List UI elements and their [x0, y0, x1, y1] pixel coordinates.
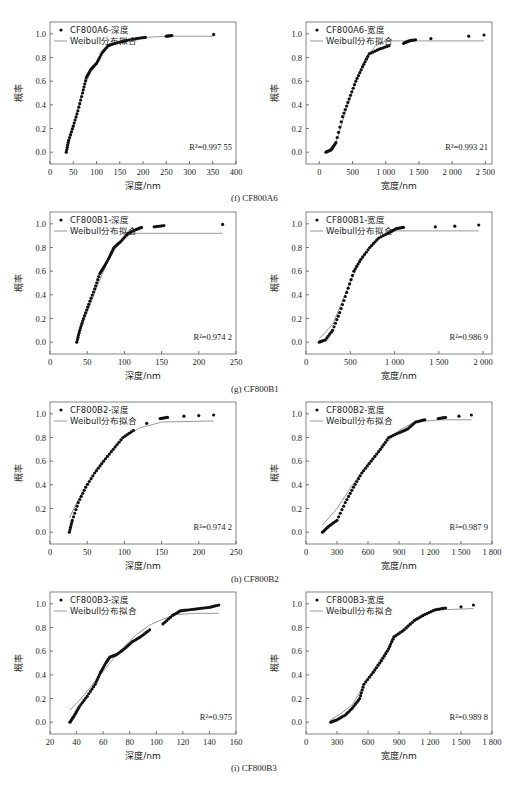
x-tick-label: 500: [346, 167, 359, 177]
legend-fit: Weibull分布拟合: [326, 606, 393, 616]
data-points: [65, 33, 216, 154]
y-tick-label: 0.8: [35, 53, 46, 63]
y-tick-label: 0.0: [291, 717, 302, 727]
legend-marker-icon: [315, 28, 318, 31]
x-tick-label: 600: [362, 737, 375, 747]
x-tick-label: 100: [150, 737, 163, 747]
y-axis-label: 概率: [13, 654, 24, 672]
legend-series: CF800A6-深度: [70, 25, 129, 35]
caption-i: (i) CF800B3: [231, 763, 277, 773]
y-axis-label: 概率: [269, 84, 280, 102]
x-axis-label: 宽度/nm: [381, 750, 417, 761]
legend-series: CF800B2-深度: [70, 405, 129, 415]
y-tick-label: 0.4: [35, 290, 46, 300]
x-tick-label: 150: [113, 167, 126, 177]
chart-b3-depth: 0.00.20.40.60.81.020406080100120140160深度…: [0, 570, 256, 760]
weibull-fit-curve: [323, 420, 472, 525]
y-tick-label: 1.0: [291, 409, 302, 419]
legend-fit: Weibull分布拟合: [70, 606, 137, 616]
x-tick-label: 100: [90, 167, 103, 177]
legend-series: CF800B1-深度: [70, 215, 129, 225]
x-tick-label: 60: [99, 737, 108, 747]
data-points: [321, 413, 473, 533]
r-squared-label: R²=0.987 9: [449, 522, 488, 532]
y-tick-label: 0.4: [35, 480, 46, 490]
x-tick-label: 1 800: [482, 547, 501, 557]
legend-fit: Weibull分布拟合: [70, 416, 137, 426]
y-tick-label: 0.8: [291, 433, 302, 443]
data-points: [318, 223, 481, 343]
chart-svg: 0.00.20.40.60.81.005001 0001 5002 000宽度/…: [256, 190, 512, 380]
weibull-fit-curve: [77, 233, 223, 336]
chart-svg: 0.00.20.40.60.81.003006009001 2001 5001 …: [256, 380, 512, 570]
legend-marker-icon: [315, 218, 318, 221]
legend-marker-icon: [315, 408, 318, 411]
chart-svg: 0.00.20.40.60.81.00501001502002503003504…: [0, 0, 256, 190]
legend-fit: Weibull分布拟合: [326, 416, 393, 426]
y-tick-label: 0.8: [35, 243, 46, 253]
x-tick-label: 350: [206, 167, 219, 177]
y-tick-label: 0.2: [291, 694, 302, 704]
y-tick-label: 0.2: [35, 694, 46, 704]
weibull-fit-curve: [69, 421, 213, 518]
weibull-fit-curve: [319, 231, 478, 339]
weibull-fit-curve: [70, 613, 219, 710]
x-tick-label: 900: [393, 737, 406, 747]
x-tick-label: 500: [344, 357, 357, 367]
legend-series: CF800B3-深度: [70, 595, 129, 605]
chart-b1-depth: 0.00.20.40.60.81.0050100150200250深度/nm概率…: [0, 190, 256, 380]
x-tick-label: 1 500: [451, 547, 470, 557]
x-tick-label: 400: [230, 167, 243, 177]
y-tick-label: 0.6: [35, 76, 46, 86]
data-points: [324, 33, 485, 153]
x-tick-label: 120: [176, 737, 189, 747]
y-tick-label: 0.6: [35, 456, 46, 466]
x-tick-label: 2 500: [476, 167, 495, 177]
chart-b2-width: 0.00.20.40.60.81.003006009001 2001 5001 …: [256, 380, 512, 570]
x-tick-label: 2 000: [443, 167, 462, 177]
data-points: [68, 413, 216, 533]
y-tick-label: 0.2: [35, 504, 46, 514]
y-axis-label: 概率: [269, 654, 280, 672]
weibull-fit-curve: [331, 609, 474, 720]
x-tick-label: 0: [304, 737, 308, 747]
r-squared-label: R²=0.989 8: [449, 712, 488, 722]
r-squared-label: R²=0.975: [200, 712, 232, 722]
x-tick-label: 300: [331, 547, 344, 557]
chart-a6-depth: 0.00.20.40.60.81.00501001502002503003504…: [0, 0, 256, 190]
legend-fit: Weibull分布拟合: [326, 226, 393, 236]
x-tick-label: 600: [362, 547, 375, 557]
y-axis-label: 概率: [13, 84, 24, 102]
y-tick-label: 0.0: [35, 337, 46, 347]
y-tick-label: 0.6: [35, 646, 46, 656]
x-tick-label: 1 800: [482, 737, 501, 747]
x-tick-label: 50: [83, 357, 92, 367]
y-tick-label: 0.0: [291, 527, 302, 537]
x-tick-label: 0: [48, 357, 52, 367]
x-tick-label: 1 200: [420, 547, 439, 557]
y-tick-label: 0.2: [291, 314, 302, 324]
y-tick-label: 1.0: [35, 409, 46, 419]
y-tick-label: 0.2: [35, 124, 46, 134]
y-tick-label: 0.0: [35, 717, 46, 727]
x-tick-label: 150: [155, 357, 168, 367]
x-tick-label: 140: [203, 737, 216, 747]
x-tick-label: 2 000: [474, 357, 493, 367]
x-tick-label: 1 000: [385, 357, 404, 367]
x-tick-label: 200: [192, 357, 205, 367]
chart-a6-width: 0.00.20.40.60.81.005001 0001 5002 0002 5…: [256, 0, 512, 190]
x-tick-label: 1 000: [376, 167, 395, 177]
r-squared-label: R²=0.986 9: [449, 332, 488, 342]
y-tick-label: 0.8: [35, 623, 46, 633]
chart-b1-width: 0.00.20.40.60.81.005001 0001 5002 000宽度/…: [256, 190, 512, 380]
y-tick-label: 1.0: [35, 219, 46, 229]
r-squared-label: R²=0.974 2: [193, 522, 232, 532]
data-points: [68, 603, 220, 723]
r-squared-label: R²=0.974 2: [193, 332, 232, 342]
x-tick-label: 1 500: [409, 167, 428, 177]
x-tick-label: 150: [155, 547, 168, 557]
x-tick-label: 0: [304, 547, 308, 557]
y-tick-label: 1.0: [291, 219, 302, 229]
y-tick-label: 0.2: [291, 124, 302, 134]
y-tick-label: 1.0: [291, 599, 302, 609]
